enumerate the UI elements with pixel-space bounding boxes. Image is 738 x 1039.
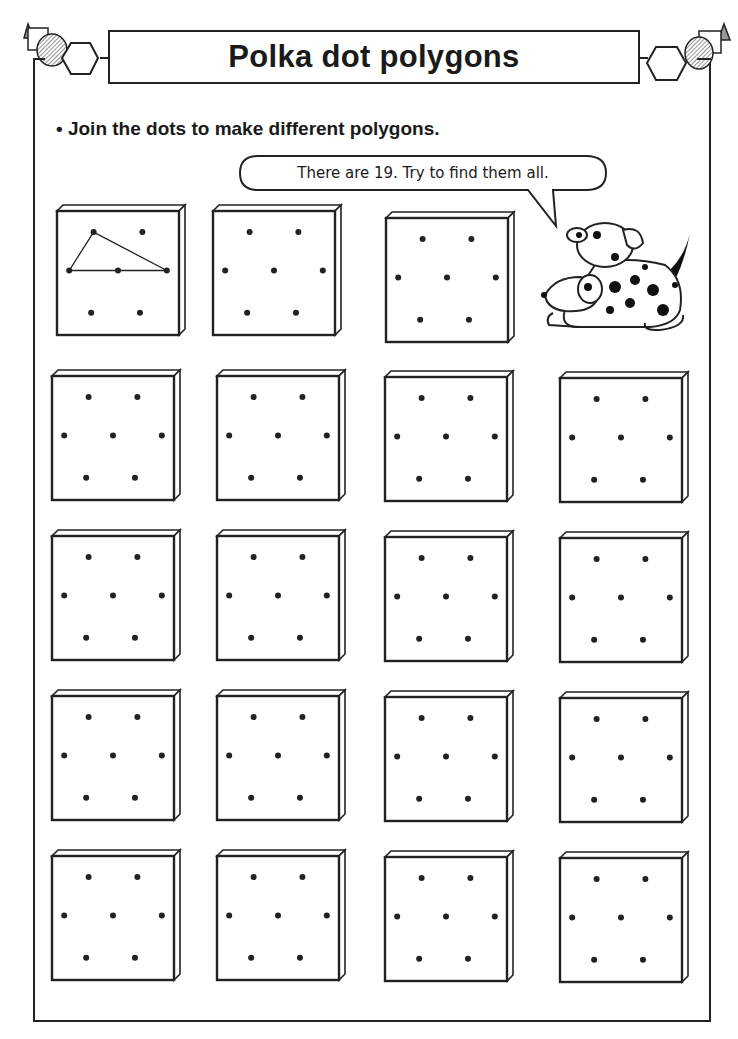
dot [493,275,499,281]
dot [416,956,422,962]
dot [132,795,138,801]
dot [416,636,422,642]
dot-card-example[interactable] [55,203,187,339]
dot [226,913,232,919]
dot [86,714,92,720]
dot [444,275,450,281]
dot [299,714,305,720]
dot [244,310,250,316]
dot [465,476,471,482]
dot [640,797,646,803]
dot [467,875,473,881]
dot-card[interactable] [215,368,347,504]
title-connector-right [640,57,648,59]
dot [275,433,281,439]
instruction-text: Join the dots to make different polygons… [68,118,440,139]
page-title: Polka dot polygons [228,39,519,75]
dot [132,475,138,481]
dot [618,915,624,921]
dot [83,475,89,481]
dot [295,229,301,235]
dot-card[interactable] [211,203,343,339]
dot [618,755,624,761]
dot [61,753,67,759]
dot [275,913,281,919]
dot [324,913,330,919]
dot-card[interactable] [50,688,182,824]
dot [88,310,94,316]
dot [419,875,425,881]
dot [667,595,673,601]
dot [591,797,597,803]
dot [618,595,624,601]
dot [251,874,257,880]
dot-card[interactable] [558,370,690,506]
dot [297,795,303,801]
dot-card[interactable] [383,529,515,665]
dot [251,554,257,560]
dot-card[interactable] [558,530,690,666]
dot [134,554,140,560]
dot [395,275,401,281]
dot [640,957,646,963]
dot [86,874,92,880]
dot-card[interactable] [383,849,515,985]
dot [394,594,400,600]
dot-card[interactable] [383,369,515,505]
dot [419,395,425,401]
dot-card[interactable] [215,528,347,664]
dot [134,714,140,720]
dot [419,715,425,721]
dot [159,753,165,759]
instruction-bullet: • [56,118,63,139]
dot [416,796,422,802]
dot-card[interactable] [50,528,182,664]
dot [275,593,281,599]
dot-card[interactable] [558,690,690,826]
frame-top-left [33,58,45,60]
dot-card[interactable] [215,848,347,984]
dot [86,554,92,560]
dot [466,317,472,323]
dot [61,593,67,599]
dot [66,268,72,274]
dot [467,395,473,401]
dot-card[interactable] [50,368,182,504]
title-connector-left [100,57,108,59]
dot [159,593,165,599]
dot [139,229,145,235]
dot [642,556,648,562]
dot-card[interactable] [384,210,516,346]
dot [248,475,254,481]
dot [324,753,330,759]
dot [222,268,228,274]
dot [591,477,597,483]
dot [640,637,646,643]
dot [275,753,281,759]
dot [640,477,646,483]
dot [248,635,254,641]
dot [467,555,473,561]
dot [594,396,600,402]
dot [247,229,253,235]
dot [618,435,624,441]
dot [297,475,303,481]
dot [324,433,330,439]
dot [417,317,423,323]
dot [297,635,303,641]
dot [492,754,498,760]
dot [465,636,471,642]
dot-card[interactable] [558,850,690,986]
dot [443,914,449,920]
dot [569,915,575,921]
dot [492,914,498,920]
page-title-box: Polka dot polygons [108,30,640,84]
dot-card[interactable] [50,848,182,984]
dot [443,754,449,760]
dot [594,716,600,722]
dot [667,755,673,761]
dot-card[interactable] [215,688,347,824]
dot-card[interactable] [383,689,515,825]
dot [134,874,140,880]
dot [642,716,648,722]
